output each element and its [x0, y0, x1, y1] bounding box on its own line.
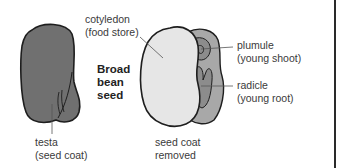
label-cotyledon-line-1: cotyledon	[85, 13, 139, 26]
label-testa-line-1: testa	[35, 136, 88, 149]
label-plumule-line-2: (young shoot)	[237, 52, 301, 65]
title-line-3: seed	[97, 89, 130, 102]
label-plumule-line-1: plumule	[237, 39, 301, 52]
label-testa-line-2: (seed coat)	[35, 149, 88, 162]
diagram-title: Broad bean seed	[97, 63, 130, 102]
label-radicle: radicle (young root)	[237, 79, 294, 104]
whole-seed-illustration	[21, 24, 80, 134]
label-cotyledon-line-2: (food store)	[85, 26, 139, 39]
label-radicle-line-1: radicle	[237, 79, 294, 92]
label-seed-coat-removed-line-2: removed	[155, 149, 201, 162]
label-radicle-line-2: (young root)	[237, 92, 294, 105]
label-plumule: plumule (young shoot)	[237, 39, 301, 64]
opened-seed-illustration	[140, 27, 233, 126]
label-seed-coat-removed-line-1: seed coat	[155, 136, 201, 149]
right-border-line	[334, 0, 336, 168]
label-testa: testa (seed coat)	[35, 136, 88, 161]
title-line-2: bean	[97, 76, 130, 89]
label-seed-coat-removed: seed coat removed	[155, 136, 201, 161]
title-line-1: Broad	[97, 63, 130, 76]
label-cotyledon: cotyledon (food store)	[85, 13, 139, 38]
